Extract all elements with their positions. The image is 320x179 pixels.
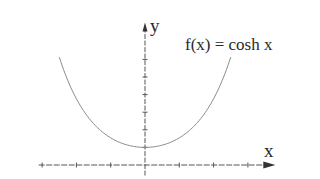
x-axis	[39, 162, 276, 169]
y-axis	[143, 22, 148, 175]
y-axis-label: y	[150, 16, 160, 35]
function-label: f(x) = cosh x	[185, 36, 272, 53]
x-axis-label: x	[264, 141, 274, 160]
